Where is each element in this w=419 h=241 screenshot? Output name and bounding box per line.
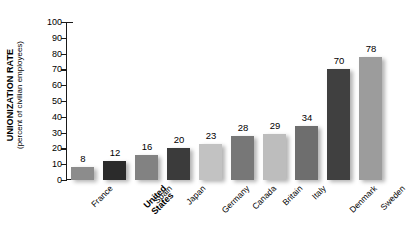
- bar-slot: 16: [131, 22, 163, 180]
- y-axis-tick-label: 80: [26, 49, 62, 58]
- bar-value-label: 16: [131, 142, 163, 152]
- bar-slot: 20: [163, 22, 195, 180]
- bar-canada[interactable]: [231, 136, 254, 180]
- y-axis-title-main: UNIONIZATION RATE: [5, 41, 15, 149]
- x-label-slot: UnitedStates: [99, 182, 131, 241]
- y-axis-tick-label: 40: [26, 112, 62, 121]
- x-label-slot: Spain: [131, 182, 163, 241]
- bar-value-label: 23: [195, 131, 227, 141]
- bar-britain[interactable]: [263, 134, 286, 180]
- y-axis-title-sub: (percent of civilian employees): [16, 41, 25, 149]
- bar-slot: 28: [227, 22, 259, 180]
- bar-slot: 70: [323, 22, 355, 180]
- unionization-rate-bar-chart: UNIONIZATION RATE (percent of civilian e…: [0, 0, 419, 241]
- y-axis-tick-label: 60: [26, 81, 62, 90]
- bar-value-label: 20: [163, 135, 195, 145]
- y-axis-tick-label: 0: [26, 176, 62, 185]
- x-label-slot: Sweden: [355, 182, 387, 241]
- bar-value-label: 12: [99, 148, 131, 158]
- bar-slot: 23: [195, 22, 227, 180]
- bar-japan[interactable]: [167, 148, 190, 180]
- x-axis-label-sweden: Sweden: [379, 184, 407, 212]
- bar-value-label: 29: [259, 121, 291, 131]
- x-label-slot: Germany: [195, 182, 227, 241]
- y-axis-tick-labels: 1009080706050403020100: [26, 16, 62, 180]
- y-axis-tick: [61, 180, 67, 181]
- bar-slot: 78: [355, 22, 387, 180]
- bar-value-label: 34: [291, 113, 323, 123]
- bar-slot: 12: [99, 22, 131, 180]
- bar-france[interactable]: [71, 167, 94, 180]
- bar-italy[interactable]: [295, 126, 318, 180]
- bar-slot: 8: [67, 22, 99, 180]
- y-axis-tick-label: 30: [26, 128, 62, 137]
- bar-spain[interactable]: [135, 155, 158, 180]
- x-label-slot: Italy: [291, 182, 323, 241]
- x-label-slot: Canada: [227, 182, 259, 241]
- y-axis-tick-label: 10: [26, 160, 62, 169]
- bar-value-label: 78: [355, 44, 387, 54]
- bar-slot: 29: [259, 22, 291, 180]
- x-label-slot: Britain: [259, 182, 291, 241]
- y-axis-tick-label: 90: [26, 33, 62, 42]
- bar-value-label: 28: [227, 123, 259, 133]
- bar-germany[interactable]: [199, 144, 222, 180]
- x-label-slot: Japan: [163, 182, 195, 241]
- x-axis-category-labels: FranceUnitedStatesSpainJapanGermanyCanad…: [67, 182, 415, 241]
- bar-denmark[interactable]: [327, 69, 350, 180]
- bar-united-states[interactable]: [103, 161, 126, 180]
- plot-area: 8121620232829347078: [67, 22, 415, 180]
- y-axis-tick-label: 20: [26, 144, 62, 153]
- bar-slot: 34: [291, 22, 323, 180]
- y-axis-tick-label: 50: [26, 97, 62, 106]
- x-label-slot: Denmark: [323, 182, 355, 241]
- bar-value-label: 8: [67, 154, 99, 164]
- y-axis-tick-label: 100: [26, 18, 62, 27]
- x-label-slot: France: [67, 182, 99, 241]
- y-axis-tick-label: 70: [26, 65, 62, 74]
- bar-value-label: 70: [323, 56, 355, 66]
- bar-sweden[interactable]: [359, 57, 382, 180]
